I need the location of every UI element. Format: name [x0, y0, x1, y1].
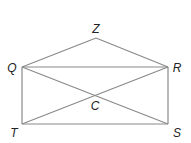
- labels: Z Q R T S C: [7, 22, 181, 140]
- label-q: Q: [7, 61, 16, 75]
- segment-qz: [22, 38, 96, 67]
- label-t: T: [10, 126, 19, 140]
- label-c: C: [91, 99, 100, 113]
- geometry-diagram: Z Q R T S C: [0, 0, 191, 143]
- label-z: Z: [91, 22, 100, 36]
- segment-zr: [96, 38, 168, 67]
- label-s: S: [173, 126, 181, 140]
- label-r: R: [173, 61, 182, 75]
